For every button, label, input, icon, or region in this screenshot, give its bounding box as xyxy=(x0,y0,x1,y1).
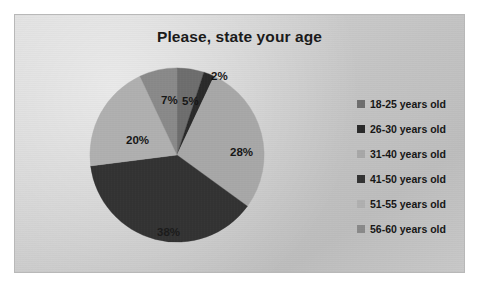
legend-swatch-icon xyxy=(357,125,365,133)
legend-swatch-icon xyxy=(357,150,365,158)
legend-item-label: 41-50 years old xyxy=(370,173,446,185)
legend-item-label: 26-30 years old xyxy=(370,123,446,135)
legend-item-label: 31-40 years old xyxy=(370,148,446,160)
legend-item[interactable]: 41-50 years old xyxy=(357,168,465,190)
legend-item[interactable]: 18-25 years old xyxy=(357,93,465,115)
chart-container: Please, state your age 5% 2% 28% 38% 20%… xyxy=(14,14,465,273)
pie-chart xyxy=(89,67,265,243)
legend-item-label: 56-60 years old xyxy=(370,223,446,235)
legend-item-label: 51-55 years old xyxy=(370,198,446,210)
legend-item[interactable]: 31-40 years old xyxy=(357,143,465,165)
legend-swatch-icon xyxy=(357,175,365,183)
legend-swatch-icon xyxy=(357,100,365,108)
pie-slice-group xyxy=(90,68,264,242)
chart-legend: 18-25 years old26-30 years old31-40 year… xyxy=(357,93,465,243)
legend-swatch-icon xyxy=(357,225,365,233)
legend-item[interactable]: 51-55 years old xyxy=(357,193,465,215)
legend-swatch-icon xyxy=(357,200,365,208)
legend-item[interactable]: 56-60 years old xyxy=(357,218,465,240)
legend-item[interactable]: 26-30 years old xyxy=(357,118,465,140)
legend-item-label: 18-25 years old xyxy=(370,98,446,110)
